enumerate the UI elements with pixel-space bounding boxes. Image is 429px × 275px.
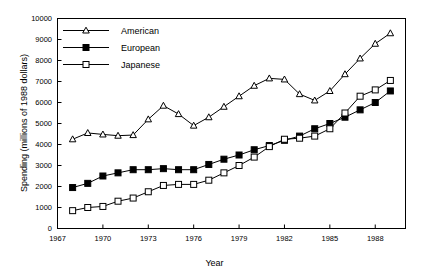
data-point-marker	[191, 181, 197, 187]
y-tick-label: 4000	[14, 140, 52, 149]
data-point-marker	[176, 167, 182, 173]
data-point-marker	[70, 208, 76, 214]
data-point-marker	[387, 77, 393, 83]
data-point-marker	[191, 167, 197, 173]
data-point-marker	[190, 122, 196, 128]
data-point-marker	[327, 126, 333, 132]
data-point-marker	[160, 166, 166, 172]
legend-item-american: American	[63, 22, 160, 39]
chart-figure: Spending (millions of 1988 dollars) Year…	[0, 0, 429, 275]
data-point-marker	[145, 189, 151, 195]
data-point-marker	[387, 30, 393, 36]
data-point-marker	[251, 147, 257, 153]
y-tick-label: 3000	[14, 161, 52, 170]
data-point-marker	[100, 173, 106, 179]
data-point-marker	[266, 75, 272, 81]
chart-legend: American European Japanese	[63, 22, 160, 73]
data-point-marker	[236, 152, 242, 158]
data-point-marker	[176, 181, 182, 187]
data-point-marker	[206, 177, 212, 183]
data-point-marker	[251, 82, 257, 88]
y-tick-label: 1000	[14, 203, 52, 212]
data-point-marker	[372, 40, 378, 46]
y-tick-label: 2000	[14, 182, 52, 191]
data-point-marker	[160, 102, 166, 108]
data-point-marker	[387, 88, 393, 94]
y-tick-label: 6000	[14, 98, 52, 107]
data-point-marker	[115, 170, 121, 176]
y-tick-label: 7000	[14, 77, 52, 86]
x-tick-label: 1988	[359, 234, 391, 243]
data-point-marker	[100, 203, 106, 209]
legend-item-european: European	[63, 39, 160, 56]
data-point-marker	[281, 136, 287, 142]
data-point-marker	[145, 167, 151, 173]
y-tick-label: 8000	[14, 56, 52, 65]
y-tick-label: 10000	[14, 14, 52, 23]
data-point-marker	[297, 135, 303, 141]
data-point-marker	[115, 198, 121, 204]
legend-label-japanese: Japanese	[121, 60, 160, 70]
data-point-marker	[251, 154, 257, 160]
legend-item-japanese: Japanese	[63, 56, 160, 73]
x-tick-label: 1979	[223, 234, 255, 243]
legend-marker-open-triangle-icon	[63, 25, 109, 37]
data-point-marker	[85, 180, 91, 186]
data-point-marker	[175, 111, 181, 117]
data-point-marker	[130, 195, 136, 201]
legend-marker-filled-square-icon	[63, 42, 109, 54]
x-tick-label: 1982	[268, 234, 300, 243]
data-point-marker	[357, 107, 363, 113]
x-tick-label: 1976	[178, 234, 210, 243]
data-point-marker	[130, 167, 136, 173]
data-point-marker	[372, 87, 378, 93]
data-point-marker	[70, 185, 76, 191]
x-tick-label: 1967	[42, 234, 74, 243]
data-point-marker	[372, 100, 378, 106]
x-tick-label: 1973	[132, 234, 164, 243]
data-point-marker	[357, 93, 363, 99]
data-point-marker	[236, 163, 242, 169]
data-point-marker	[266, 144, 272, 150]
data-point-marker	[312, 133, 318, 139]
y-tick-label: 9000	[14, 35, 52, 44]
y-tick-label: 5000	[14, 119, 52, 128]
data-point-marker	[206, 114, 212, 120]
data-point-marker	[312, 126, 318, 132]
x-tick-label: 1970	[87, 234, 119, 243]
y-tick-label: 0	[14, 224, 52, 233]
data-point-marker	[221, 170, 227, 176]
data-point-marker	[206, 161, 212, 167]
x-axis-title: Year	[0, 258, 429, 268]
data-point-marker	[236, 93, 242, 99]
x-tick-label: 1985	[314, 234, 346, 243]
data-point-marker	[221, 156, 227, 162]
legend-label-european: European	[121, 43, 160, 53]
data-point-marker	[85, 130, 91, 136]
data-point-marker	[160, 182, 166, 188]
data-point-marker	[342, 110, 348, 116]
data-point-marker	[221, 103, 227, 109]
legend-label-american: American	[121, 26, 159, 36]
legend-marker-open-square-icon	[63, 59, 109, 71]
data-point-marker	[85, 205, 91, 211]
